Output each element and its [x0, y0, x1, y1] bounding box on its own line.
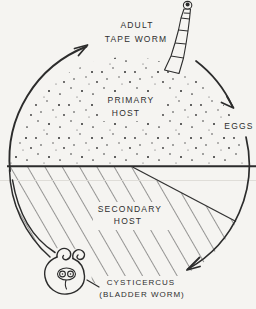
label-secondary-host-line1: SECONDARY	[98, 205, 163, 214]
label-primary-host-line2: HOST	[112, 109, 140, 118]
label-cysticercus-line1: CYSTICERCUS	[107, 279, 175, 287]
life-cycle-artwork	[0, 0, 256, 309]
label-secondary-host-line2: HOST	[114, 217, 142, 226]
label-primary-host-line1: PRIMARY	[108, 96, 155, 105]
label-eggs: EGGS	[224, 122, 253, 131]
label-adult-tapeworm-line1: ADULT	[120, 21, 153, 30]
label-cysticercus-line2: (BLADDER WORM)	[99, 291, 185, 299]
label-adult-tapeworm-line2: TAPE WORM	[105, 35, 168, 44]
tapeworm-life-cycle-diagram: ADULT TAPE WORM PRIMARY HOST EGGS SECOND…	[0, 0, 256, 309]
